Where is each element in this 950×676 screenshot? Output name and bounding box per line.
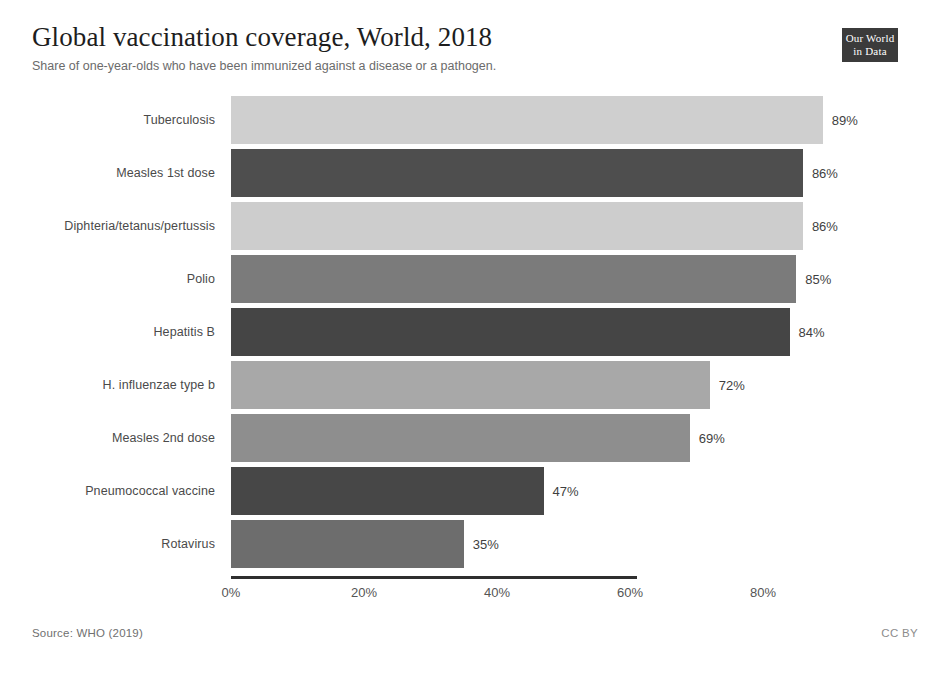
bar-value-label: 89% xyxy=(823,96,858,144)
bar[interactable] xyxy=(231,202,803,250)
bar-value-label: 86% xyxy=(803,149,838,197)
bar-value-label: 85% xyxy=(796,255,831,303)
page-title: Global vaccination coverage, World, 2018 xyxy=(32,22,918,53)
bar[interactable] xyxy=(231,361,710,409)
x-tick-label: 80% xyxy=(750,585,776,600)
bar[interactable] xyxy=(231,96,823,144)
chart-header: Global vaccination coverage, World, 2018… xyxy=(32,22,918,82)
bar-row: Diphteria/tetanus/pertussis86% xyxy=(0,202,950,250)
license-note[interactable]: CC BY xyxy=(881,627,918,639)
category-label: Polio xyxy=(0,255,215,303)
category-label: Rotavirus xyxy=(0,520,215,568)
bar[interactable] xyxy=(231,149,803,197)
category-label: Measles 1st dose xyxy=(0,149,215,197)
bar-value-label: 72% xyxy=(710,361,745,409)
bar-track: 86% xyxy=(231,202,932,250)
bar-value-label: 69% xyxy=(690,414,725,462)
category-label: Diphteria/tetanus/pertussis xyxy=(0,202,215,250)
bar-row: Tuberculosis89% xyxy=(0,96,950,144)
bar[interactable] xyxy=(231,414,690,462)
bar-row: Measles 2nd dose69% xyxy=(0,414,950,462)
x-tick-label: 40% xyxy=(484,585,510,600)
bar-track: 84% xyxy=(231,308,932,356)
bar[interactable] xyxy=(231,467,544,515)
our-world-in-data-logo[interactable]: Our World in Data xyxy=(842,28,898,62)
category-label: Measles 2nd dose xyxy=(0,414,215,462)
bar-row: Polio85% xyxy=(0,255,950,303)
bar-value-label: 86% xyxy=(803,202,838,250)
bar[interactable] xyxy=(231,308,790,356)
bar-row: Measles 1st dose86% xyxy=(0,149,950,197)
source-note: Source: WHO (2019) xyxy=(32,627,143,639)
logo-line-2: in Data xyxy=(853,45,886,58)
bar-track: 85% xyxy=(231,255,932,303)
bar-track: 47% xyxy=(231,467,932,515)
category-label: Hepatitis B xyxy=(0,308,215,356)
bar-value-label: 35% xyxy=(464,520,499,568)
x-tick-label: 60% xyxy=(617,585,643,600)
category-label: H. influenzae type b xyxy=(0,361,215,409)
bar-track: 35% xyxy=(231,520,932,568)
bar-row: Rotavirus35% xyxy=(0,520,950,568)
bar-track: 89% xyxy=(231,96,932,144)
x-axis-line xyxy=(231,576,637,579)
bar-track: 72% xyxy=(231,361,932,409)
x-tick-label: 20% xyxy=(351,585,377,600)
bar-row: H. influenzae type b72% xyxy=(0,361,950,409)
bar-value-label: 47% xyxy=(544,467,579,515)
bar-row: Pneumococcal vaccine47% xyxy=(0,467,950,515)
bar[interactable] xyxy=(231,255,796,303)
category-label: Pneumococcal vaccine xyxy=(0,467,215,515)
chart-footer: Source: WHO (2019) CC BY xyxy=(32,627,918,647)
x-axis: 0%20%40%60%80% xyxy=(231,576,932,606)
category-label: Tuberculosis xyxy=(0,96,215,144)
plot-area: Tuberculosis89%Measles 1st dose86%Diphte… xyxy=(0,96,950,574)
chart-container: Global vaccination coverage, World, 2018… xyxy=(0,0,950,676)
bar-row: Hepatitis B84% xyxy=(0,308,950,356)
bar[interactable] xyxy=(231,520,464,568)
bar-track: 86% xyxy=(231,149,932,197)
chart-subtitle: Share of one-year-olds who have been imm… xyxy=(32,59,918,74)
logo-line-1: Our World xyxy=(846,32,895,45)
bar-track: 69% xyxy=(231,414,932,462)
x-tick-label: 0% xyxy=(222,585,241,600)
bar-value-label: 84% xyxy=(790,308,825,356)
